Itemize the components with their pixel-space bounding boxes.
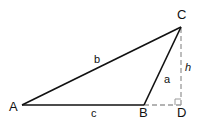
side-b: [22, 27, 181, 105]
vertex-label-b: B: [139, 105, 148, 120]
altitude-label-h: h: [185, 61, 191, 73]
side-label-b: b: [94, 53, 100, 65]
vertex-label-c: C: [177, 7, 186, 22]
triangle-diagram: A B C D b a c h: [0, 0, 202, 121]
vertex-label-a: A: [9, 99, 18, 114]
side-label-a: a: [164, 73, 171, 85]
side-label-c: c: [91, 107, 97, 119]
vertex-label-d: D: [177, 105, 186, 120]
side-a: [144, 27, 181, 105]
